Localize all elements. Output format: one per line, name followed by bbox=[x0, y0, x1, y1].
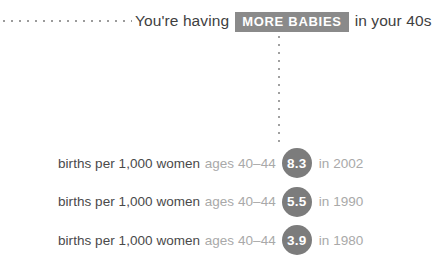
row-label-year: in 2002 bbox=[319, 156, 364, 171]
row-label-main: births per 1,000 women bbox=[58, 156, 200, 171]
infographic-canvas: You're havingMORE BABIESin your 40s birt… bbox=[0, 0, 434, 278]
row-label-main: births per 1,000 women bbox=[58, 194, 200, 209]
headline-text-before: You're having bbox=[135, 12, 229, 29]
row-label-age-range: ages 40–44 bbox=[205, 194, 276, 209]
value-bubble: 8.3 bbox=[282, 148, 312, 178]
headline-row: You're havingMORE BABIESin your 40s bbox=[0, 8, 434, 34]
headline: You're havingMORE BABIESin your 40s bbox=[135, 8, 432, 34]
value-bubble: 5.5 bbox=[282, 187, 312, 217]
vertical-dotted-line-icon bbox=[278, 33, 280, 145]
row-label-age-range: ages 40–44 bbox=[205, 156, 276, 171]
row-label-year: in 1990 bbox=[319, 194, 364, 209]
highlight-badge: MORE BABIES bbox=[235, 12, 348, 32]
value-bubble: 3.9 bbox=[282, 225, 312, 255]
data-row: births per 1,000 women ages 40–44 3.9 in… bbox=[0, 221, 434, 260]
headline-text-after: in your 40s bbox=[355, 12, 432, 29]
row-label-year: in 1980 bbox=[319, 233, 364, 248]
row-label-main: births per 1,000 women bbox=[58, 233, 200, 248]
row-label-age-range: ages 40–44 bbox=[205, 233, 276, 248]
data-row: births per 1,000 women ages 40–44 8.3 in… bbox=[0, 144, 434, 183]
data-row: births per 1,000 women ages 40–44 5.5 in… bbox=[0, 183, 434, 222]
horizontal-dotted-line-icon bbox=[0, 8, 135, 34]
data-rows: births per 1,000 women ages 40–44 8.3 in… bbox=[0, 144, 434, 260]
